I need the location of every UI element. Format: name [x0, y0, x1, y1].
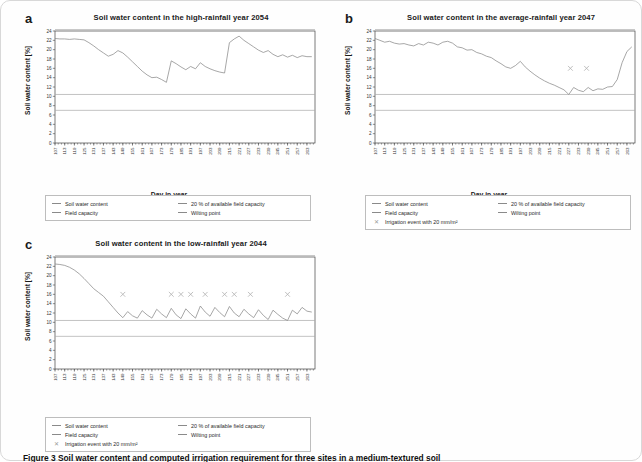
- svg-text:16: 16: [366, 66, 372, 71]
- svg-text:245: 245: [275, 373, 280, 381]
- svg-text:203: 203: [208, 147, 213, 155]
- svg-text:209: 209: [217, 373, 222, 381]
- line-swatch-icon: [52, 212, 61, 213]
- svg-text:179: 179: [169, 147, 174, 155]
- panel-b-ylabel: Soil water content [%]: [344, 26, 351, 136]
- svg-text:197: 197: [518, 147, 523, 155]
- svg-text:10: 10: [46, 320, 52, 325]
- legend-item-irrigation: ✕ Irrigation event with 20 mm/m²: [52, 441, 304, 447]
- svg-text:173: 173: [479, 147, 484, 155]
- svg-text:155: 155: [450, 147, 455, 155]
- svg-text:173: 173: [159, 373, 164, 381]
- panel-a-plot: Soil water content [%] 02468101214161820…: [19, 25, 319, 175]
- line-swatch-icon: [178, 212, 187, 213]
- svg-text:107: 107: [53, 147, 58, 155]
- svg-text:155: 155: [130, 373, 135, 381]
- line-swatch-icon: [178, 434, 187, 435]
- legend-item-soil-water-content: Soil water content: [52, 423, 178, 429]
- svg-text:215: 215: [227, 373, 232, 381]
- svg-text:119: 119: [392, 147, 397, 155]
- svg-text:227: 227: [246, 373, 251, 381]
- svg-text:203: 203: [208, 373, 213, 381]
- legend-label: Wilting point: [191, 432, 220, 438]
- panel-b-legend: Soil water content 20 % of available fie…: [365, 195, 631, 230]
- legend-label: Wilting point: [191, 210, 220, 216]
- legend-label: Field capacity: [65, 210, 98, 216]
- svg-text:2: 2: [369, 131, 372, 136]
- svg-text:113: 113: [62, 147, 67, 155]
- svg-text:119: 119: [72, 373, 77, 381]
- svg-text:18: 18: [46, 57, 52, 62]
- panel-c-svg: 0246810121416182022241071131191251311371…: [19, 251, 319, 401]
- legend-label: Field capacity: [385, 210, 418, 216]
- panel-a-title: Soil water content in the high-rainfall …: [49, 13, 313, 22]
- svg-text:263: 263: [625, 147, 630, 155]
- legend-item-field-capacity: Field capacity: [52, 210, 178, 216]
- svg-text:161: 161: [140, 147, 145, 155]
- svg-text:131: 131: [91, 147, 96, 155]
- panel-c-title: Soil water content in the low-rainfall y…: [49, 239, 313, 248]
- panel-c-ylabel: Soil water content [%]: [24, 252, 31, 362]
- panel-b-letter: b: [345, 11, 353, 26]
- svg-text:0: 0: [49, 141, 52, 146]
- svg-text:239: 239: [266, 373, 271, 381]
- legend-label: Irrigation event with 20 mm/m²: [385, 219, 458, 225]
- svg-text:161: 161: [460, 147, 465, 155]
- svg-text:12: 12: [366, 85, 372, 90]
- legend-label: Field capacity: [65, 432, 98, 438]
- legend-row: Soil water content 20 % of available fie…: [52, 421, 304, 430]
- svg-text:167: 167: [149, 147, 154, 155]
- svg-text:173: 173: [159, 147, 164, 155]
- svg-text:179: 179: [169, 373, 174, 381]
- svg-text:18: 18: [366, 57, 372, 62]
- svg-text:8: 8: [49, 103, 52, 108]
- svg-text:22: 22: [366, 38, 372, 43]
- svg-text:125: 125: [402, 147, 407, 155]
- svg-text:2: 2: [49, 131, 52, 136]
- svg-text:14: 14: [46, 75, 52, 80]
- svg-text:191: 191: [188, 147, 193, 155]
- svg-text:209: 209: [217, 147, 222, 155]
- svg-text:149: 149: [440, 147, 445, 155]
- svg-text:191: 191: [508, 147, 513, 155]
- svg-text:131: 131: [411, 147, 416, 155]
- svg-text:257: 257: [295, 373, 300, 381]
- svg-text:155: 155: [130, 147, 135, 155]
- legend-label: Soil water content: [385, 201, 428, 207]
- legend-item-afc20: 20 % of available field capacity: [178, 201, 304, 207]
- svg-text:16: 16: [46, 292, 52, 297]
- svg-text:197: 197: [198, 373, 203, 381]
- svg-text:24: 24: [46, 29, 52, 34]
- legend-label: Soil water content: [65, 201, 108, 207]
- svg-text:8: 8: [49, 329, 52, 334]
- svg-text:12: 12: [46, 311, 52, 316]
- svg-text:10: 10: [366, 94, 372, 99]
- svg-text:0: 0: [369, 141, 372, 146]
- svg-text:14: 14: [366, 75, 372, 80]
- svg-text:4: 4: [49, 122, 52, 127]
- cross-marker-icon: ✕: [372, 219, 381, 225]
- panel-b-svg: 0246810121416182022241071131191251311371…: [339, 25, 639, 175]
- svg-text:4: 4: [369, 122, 372, 127]
- svg-text:22: 22: [46, 38, 52, 43]
- svg-text:263: 263: [305, 373, 310, 381]
- svg-text:251: 251: [605, 147, 610, 155]
- line-swatch-icon: [178, 203, 187, 204]
- svg-text:20: 20: [46, 273, 52, 278]
- svg-text:24: 24: [46, 255, 52, 260]
- svg-text:233: 233: [576, 147, 581, 155]
- svg-text:185: 185: [179, 373, 184, 381]
- svg-text:209: 209: [537, 147, 542, 155]
- svg-text:179: 179: [489, 147, 494, 155]
- cross-marker-icon: ✕: [52, 441, 61, 447]
- svg-text:6: 6: [49, 339, 52, 344]
- svg-text:239: 239: [586, 147, 591, 155]
- svg-text:113: 113: [382, 147, 387, 155]
- svg-text:107: 107: [53, 373, 58, 381]
- line-swatch-icon: [52, 434, 61, 435]
- svg-text:24: 24: [366, 29, 372, 34]
- svg-text:167: 167: [469, 147, 474, 155]
- line-swatch-icon: [372, 212, 381, 213]
- panel-a-legend: Soil water content 20 % of available fie…: [45, 195, 311, 221]
- legend-row: Field capacity Wilting point: [52, 208, 304, 217]
